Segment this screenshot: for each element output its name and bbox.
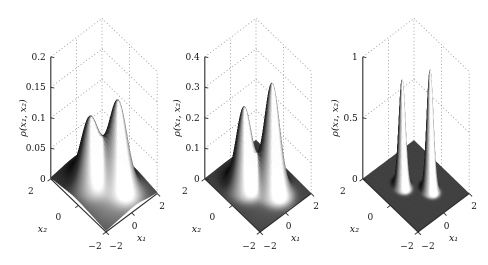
z-axis-title: ρ(x₁, x₂)	[172, 99, 182, 136]
z-tick-label: 1	[352, 52, 358, 61]
surface-plot-1: 00.050.10.150.2ρ(x₁, x₂)−202−202x₁x₂	[0, 0, 163, 265]
z-tick-label: 0.3	[185, 83, 199, 92]
surface-plot-3: 00.51ρ(x₁, x₂)−202−202x₁x₂	[326, 0, 488, 265]
x1-axis-title: x₁	[449, 233, 458, 243]
x1-tick-label: −2	[109, 241, 122, 250]
z-axis-title: ρ(x₁, x₂)	[330, 99, 340, 136]
z-tick-label: 0.15	[26, 83, 46, 92]
z-tick-label: 0.4	[185, 52, 199, 61]
surface-canvas-2	[163, 0, 326, 265]
z-tick-label: 0	[352, 174, 358, 183]
x1-tick-label: 0	[444, 222, 450, 231]
x2-axis-title: x₂	[38, 225, 47, 235]
x2-tick-label: 0	[210, 213, 216, 222]
x2-tick-label: 0	[56, 213, 62, 222]
x1-tick-label: 2	[471, 201, 477, 210]
z-tick-label: 0.1	[31, 113, 45, 122]
x2-tick-label: 2	[182, 186, 188, 195]
x2-tick-label: −2	[400, 241, 413, 250]
x1-tick-label: −2	[263, 241, 276, 250]
x2-tick-label: −2	[88, 241, 101, 250]
x1-tick-label: 0	[286, 222, 292, 231]
z-tick-label: 0.2	[31, 52, 45, 61]
x1-axis-title: x₁	[291, 233, 300, 243]
z-tick-label: 0	[194, 174, 200, 183]
z-tick-label: 0.05	[26, 144, 46, 153]
x2-tick-label: −2	[242, 241, 255, 250]
x1-tick-label: 2	[313, 201, 319, 210]
z-tick-label: 0.5	[343, 113, 357, 122]
x2-tick-label: 2	[28, 186, 34, 195]
x1-axis-title: x₁	[137, 233, 146, 243]
z-tick-label: 0.2	[185, 113, 199, 122]
x2-axis-title: x₂	[192, 225, 201, 235]
x1-tick-label: 0	[132, 222, 138, 231]
surface-plot-2: 00.10.20.30.4ρ(x₁, x₂)−202−202x₁x₂	[163, 0, 326, 265]
x1-tick-label: −2	[421, 241, 434, 250]
z-axis-title: ρ(x₁, x₂)	[18, 99, 28, 136]
x2-axis-title: x₂	[350, 225, 359, 235]
z-tick-label: 0.1	[185, 144, 199, 153]
z-tick-label: 0	[40, 174, 46, 183]
x2-tick-label: 0	[368, 213, 374, 222]
figure-root: 00.050.10.150.2ρ(x₁, x₂)−202−202x₁x₂ 00.…	[0, 0, 488, 265]
x2-tick-label: 2	[340, 186, 346, 195]
